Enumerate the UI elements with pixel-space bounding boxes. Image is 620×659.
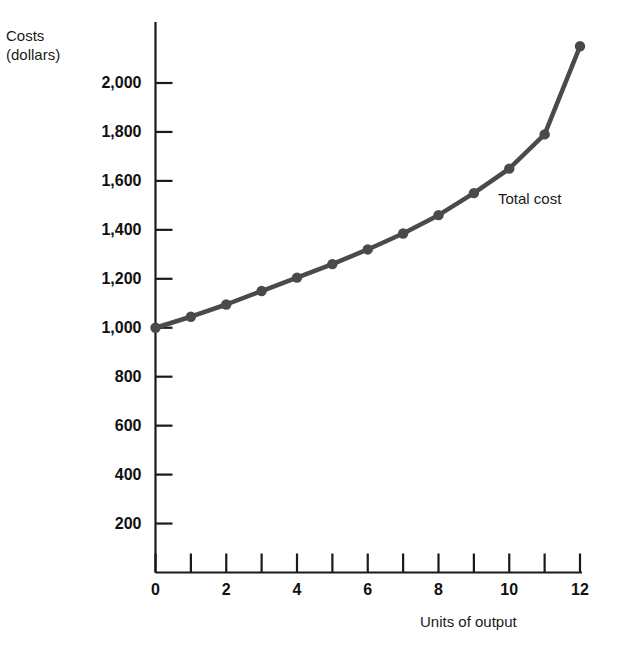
data-point-marker [221,299,231,309]
data-point-marker [327,259,337,269]
data-point-marker [398,228,408,238]
data-point-marker [504,163,514,173]
x-axis-ticks [156,554,581,573]
y-axis-ticks [156,83,173,524]
total-cost-line [156,46,581,327]
data-point-marker [539,129,549,139]
plot-area [0,0,620,659]
data-point-marker [469,188,479,198]
data-point-markers [150,41,585,333]
axis-lines [156,22,583,573]
data-point-marker [150,323,160,333]
data-point-marker [186,312,196,322]
data-point-marker [433,210,443,220]
cost-curve-chart: Costs(dollars) Units of output Total cos… [0,0,620,659]
data-point-marker [256,286,266,296]
data-point-marker [363,244,373,254]
data-point-marker [292,272,302,282]
data-point-marker [575,41,585,51]
